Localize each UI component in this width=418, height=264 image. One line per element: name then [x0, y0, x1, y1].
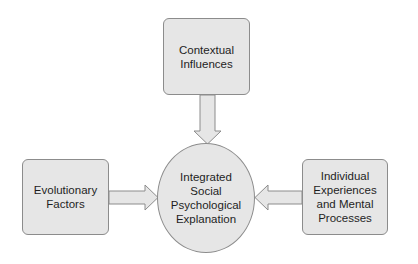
node-contextual-influences: Contextual Influences [163, 18, 250, 95]
node-label-line: Integrated [171, 170, 241, 184]
node-label-line: Social [171, 184, 241, 198]
node-individual-experiences: Individual Experiences and Mental Proces… [302, 159, 388, 235]
node-label-line: and Mental [313, 197, 376, 211]
arrow-top-to-center [194, 95, 221, 144]
node-label-line: Explanation [171, 212, 241, 226]
node-label-line: Psychological [171, 198, 241, 212]
node-label-line: Experiences [313, 183, 376, 197]
node-label-line: Influences [179, 57, 234, 71]
node-label-line: Processes [313, 211, 376, 225]
node-label-line: Individual [313, 169, 376, 183]
node-integrated-explanation: Integrated Social Psychological Explanat… [157, 143, 255, 253]
node-label-line: Evolutionary [34, 183, 97, 197]
node-evolutionary-factors: Evolutionary Factors [22, 159, 109, 235]
node-label-line: Factors [34, 197, 97, 211]
arrow-right-to-center [255, 185, 302, 210]
arrow-left-to-center [109, 185, 158, 210]
node-label-line: Contextual [179, 43, 234, 57]
